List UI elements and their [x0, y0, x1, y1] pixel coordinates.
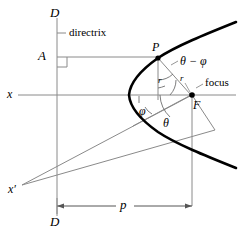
- label-radius-r-secondary: r: [158, 76, 162, 85]
- arc-phi: [145, 107, 152, 114]
- label-radius-r: r: [180, 74, 184, 83]
- dimension-arrow-left: [57, 203, 64, 208]
- arc-theta-minus-phi-inner: [158, 86, 165, 88]
- theta-minus-phi-leader: [171, 61, 178, 65]
- dimension-arrow-right: [185, 203, 192, 208]
- label-angle-phi: φ: [139, 105, 146, 117]
- label-directrix-top: D: [50, 6, 59, 19]
- label-directrix-bottom: D: [50, 215, 59, 228]
- label-point-f: F: [193, 99, 200, 111]
- label-angle-theta: θ: [163, 117, 169, 129]
- arc-at-focus-upper: [170, 80, 176, 95]
- label-distance-p: p: [120, 198, 127, 211]
- point-p-marker: [155, 55, 160, 60]
- label-axis-x-prime: x′: [8, 183, 16, 195]
- x-prime-axis-line: [22, 130, 215, 185]
- focus-leader-line: [196, 84, 203, 88]
- label-point-a: A: [38, 49, 46, 62]
- point-f-marker: [189, 92, 195, 98]
- label-angle-theta-minus-phi: θ − φ: [180, 55, 207, 67]
- label-point-p: P: [152, 41, 159, 53]
- arc-theta-at-focus: [160, 95, 170, 117]
- label-axis-x: x: [7, 88, 12, 100]
- right-angle-marker-at-a: [57, 57, 67, 67]
- label-focus-text: focus: [205, 77, 229, 88]
- label-directrix-text: directrix: [69, 27, 106, 38]
- parabola-figure: D directrix A P θ − φ r r focus F x φ θ …: [0, 0, 241, 233]
